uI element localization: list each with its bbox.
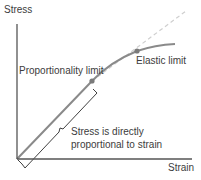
annotation-line-1: Stress is directly: [71, 125, 162, 138]
proportionality-limit-label: Proportionality limit: [19, 65, 103, 77]
proportionality-limit-marker: [89, 78, 94, 83]
stress-strain-diagram: [0, 0, 201, 180]
y-axis-label: Stress: [4, 4, 32, 16]
x-axis-label: Strain: [168, 162, 194, 174]
elastic-limit-marker: [134, 48, 139, 53]
elastic-limit-label: Elastic limit: [136, 55, 186, 67]
annotation-line-2: proportional to strain: [71, 138, 162, 151]
linear-extension-dashed-line: [92, 11, 186, 81]
linear-region-annotation: Stress is directly proportional to strai…: [71, 125, 162, 151]
